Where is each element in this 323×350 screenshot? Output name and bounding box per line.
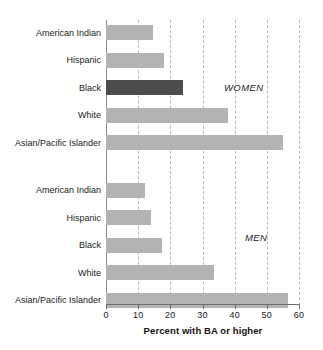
- category-label: Hispanic: [0, 55, 101, 65]
- bar: [106, 80, 183, 95]
- x-axis-tick-label: 60: [287, 310, 311, 320]
- bar: [106, 135, 283, 150]
- gridline: [203, 20, 204, 305]
- category-label: White: [0, 268, 101, 278]
- x-axis-tick-label: 30: [191, 310, 215, 320]
- bar: [106, 238, 162, 253]
- x-axis-tick-mark: [235, 305, 236, 309]
- category-label: Asian/Pacific Islander: [0, 138, 101, 148]
- x-axis-tick-mark: [203, 305, 204, 309]
- category-label: Black: [0, 83, 101, 93]
- bar-chart: American IndianHispanicBlackWhiteAsian/P…: [0, 0, 323, 350]
- gridline: [235, 20, 236, 305]
- category-label: Black: [0, 240, 101, 250]
- bar: [106, 53, 164, 68]
- category-label: American Indian: [0, 185, 101, 195]
- x-axis-tick-mark: [170, 305, 171, 309]
- x-axis-tick-mark: [267, 305, 268, 309]
- category-label: White: [0, 110, 101, 120]
- category-label: Asian/Pacific Islander: [0, 295, 101, 305]
- x-axis-tick-label: 20: [158, 310, 182, 320]
- x-axis-tick-mark: [138, 305, 139, 309]
- x-axis-title: Percent with BA or higher: [106, 325, 300, 336]
- bar: [106, 210, 151, 225]
- bar: [106, 183, 145, 198]
- x-axis-tick-mark: [106, 305, 107, 309]
- group-annotation-men: MEN: [245, 232, 267, 243]
- bar: [106, 25, 153, 40]
- gridline: [170, 20, 171, 305]
- category-label: American Indian: [0, 28, 101, 38]
- bar: [106, 293, 288, 308]
- x-axis-tick-label: 10: [126, 310, 150, 320]
- category-label: Hispanic: [0, 213, 101, 223]
- x-axis-tick-label: 40: [223, 310, 247, 320]
- x-axis-tick-mark: [299, 305, 300, 309]
- x-axis-tick-label: 50: [255, 310, 279, 320]
- bar: [106, 265, 214, 280]
- gridline: [299, 20, 300, 305]
- x-axis-tick-label: 0: [94, 310, 118, 320]
- gridline: [267, 20, 268, 305]
- group-annotation-women: WOMEN: [224, 82, 263, 93]
- bar: [106, 108, 228, 123]
